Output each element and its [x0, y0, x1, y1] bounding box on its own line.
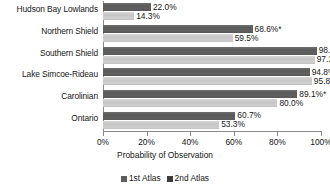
- x-axis-tick-label: 0%: [81, 137, 125, 147]
- chart-legend: 1st Atlas2nd Atlas: [0, 173, 330, 183]
- x-axis-tick: [190, 132, 191, 136]
- bar-group: 68.6%*59.5%: [103, 25, 321, 42]
- x-axis-tick-label: 80%: [255, 137, 299, 147]
- x-axis-line: [103, 131, 322, 132]
- bar: [103, 99, 277, 107]
- x-axis-tick: [277, 132, 278, 136]
- x-axis-tick: [147, 132, 148, 136]
- x-axis-tick-label: 40%: [168, 137, 212, 147]
- category-label: Lake Simcoe-Rideau: [0, 70, 98, 79]
- bar: [103, 121, 219, 129]
- x-axis-tick: [321, 132, 322, 136]
- bar: [103, 25, 253, 33]
- x-axis-tick-label: 60%: [212, 137, 256, 147]
- x-axis-tick: [234, 132, 235, 136]
- category-label: Ontario: [0, 114, 98, 123]
- bar-value-label: 14.3%: [136, 12, 160, 21]
- bar: [103, 68, 310, 76]
- legend-item[interactable]: 1st Atlas: [121, 173, 161, 183]
- bar: [103, 56, 315, 64]
- x-axis-tick-label: 20%: [125, 137, 169, 147]
- category-label: Hudson Bay Lowlands: [0, 5, 98, 14]
- bar-value-label: 80.0%: [279, 99, 303, 108]
- horizontal-bar-chart: Hudson Bay LowlandsNorthern ShieldSouthe…: [0, 0, 330, 188]
- bar: [103, 12, 134, 20]
- bar-group: 94.8%95.8%: [103, 68, 321, 85]
- x-axis-tick-label: 100%: [299, 137, 330, 147]
- x-axis-title: Probability of Observation: [0, 150, 330, 160]
- legend-label: 2nd Atlas: [175, 173, 209, 183]
- bar: [103, 34, 233, 42]
- legend-swatch-2nd-atlas: [167, 176, 173, 182]
- bar-value-label: 53.3%: [221, 120, 245, 129]
- bar: [103, 47, 317, 55]
- bar-group: 98.0%97.1%: [103, 47, 321, 64]
- bar: [103, 90, 297, 98]
- bar-value-label: 59.5%: [235, 34, 259, 43]
- category-axis-labels: Hudson Bay LowlandsNorthern ShieldSouthe…: [0, 0, 101, 131]
- bar-value-label: 95.8%: [314, 77, 330, 86]
- legend-item[interactable]: 2nd Atlas: [167, 173, 209, 183]
- category-label: Carolinian: [0, 92, 98, 101]
- category-label: Northern Shield: [0, 27, 98, 36]
- bar-value-label: 97.1%: [317, 55, 330, 64]
- bar: [103, 112, 235, 120]
- plot-area: 0%20%40%60%80%100%22.0%14.3%68.6%*59.5%9…: [103, 1, 321, 131]
- x-axis-tick: [103, 132, 104, 136]
- bar-value-label: 89.1%*: [299, 90, 326, 99]
- legend-swatch-1st-atlas: [121, 176, 127, 182]
- bar-group: 22.0%14.3%: [103, 3, 321, 20]
- bar-group: 89.1%*80.0%: [103, 90, 321, 107]
- category-label: Southern Shield: [0, 49, 98, 58]
- bar-group: 60.7%53.3%: [103, 112, 321, 129]
- legend-label: 1st Atlas: [129, 173, 161, 183]
- bar-value-label: 68.6%*: [255, 25, 282, 34]
- bar: [103, 77, 312, 85]
